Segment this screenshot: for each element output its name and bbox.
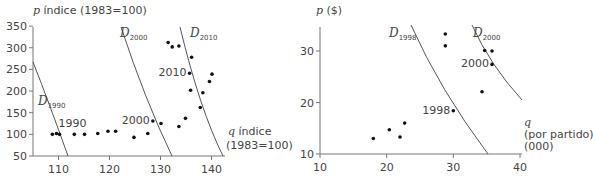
y-axis-title: p ($) bbox=[316, 4, 342, 17]
y-tick-label: 350 bbox=[6, 20, 27, 33]
demand-curve-label: D2000 bbox=[472, 26, 500, 42]
y-tick-label: 100 bbox=[6, 128, 27, 141]
data-point bbox=[444, 32, 448, 36]
data-point bbox=[51, 133, 55, 137]
data-point bbox=[73, 133, 77, 137]
data-point bbox=[55, 132, 59, 136]
data-point bbox=[403, 121, 407, 125]
chart-attendance-index: 11012013014050100150200250300350p índice… bbox=[6, 4, 293, 176]
point-year-label: 1998 bbox=[422, 104, 450, 117]
demand-curve bbox=[411, 25, 488, 154]
point-year-label: 2000 bbox=[461, 57, 489, 70]
y-tick-label: 200 bbox=[6, 85, 27, 98]
chart-canvas: 11012013014050100150200250300350p índice… bbox=[0, 0, 593, 183]
y-tick-label: 300 bbox=[6, 42, 27, 55]
data-point bbox=[398, 135, 402, 139]
data-point bbox=[159, 122, 163, 126]
x-axis-title: q índice bbox=[228, 125, 272, 138]
x-axis-title-line3: (000) bbox=[524, 140, 554, 153]
y-tick-label: 150 bbox=[6, 107, 27, 120]
data-point bbox=[177, 44, 181, 48]
data-point bbox=[166, 41, 170, 45]
data-point bbox=[96, 132, 100, 136]
data-point bbox=[58, 133, 62, 137]
y-tick-label: 30 bbox=[300, 45, 314, 58]
x-tick-label: 110 bbox=[48, 163, 69, 176]
x-tick-label: 10 bbox=[313, 161, 327, 174]
data-point bbox=[480, 90, 484, 94]
data-point bbox=[132, 136, 136, 140]
point-year-label: 2010 bbox=[159, 66, 187, 79]
x-tick-label: 120 bbox=[99, 163, 120, 176]
data-point bbox=[170, 45, 174, 49]
data-point bbox=[208, 80, 212, 84]
chart-ticket-price: 10203040102030p ($)q(por partido)(000)D1… bbox=[300, 4, 593, 174]
x-axis-title-line2: (1983=100) bbox=[226, 139, 293, 152]
data-point bbox=[490, 49, 494, 53]
demand-curve bbox=[121, 27, 172, 156]
x-tick-label: 40 bbox=[513, 161, 527, 174]
demand-curve-label: D1990 bbox=[37, 94, 65, 110]
data-point bbox=[190, 55, 194, 59]
x-tick-label: 130 bbox=[150, 163, 171, 176]
x-tick-label: 30 bbox=[446, 161, 460, 174]
point-year-label: 2000 bbox=[122, 114, 150, 127]
data-point bbox=[444, 44, 448, 48]
data-point bbox=[483, 49, 487, 53]
y-tick-label: 10 bbox=[300, 148, 314, 161]
demand-curve bbox=[180, 27, 223, 156]
data-point bbox=[188, 71, 192, 75]
data-point bbox=[83, 133, 87, 137]
y-tick-label: 250 bbox=[6, 63, 27, 76]
x-tick-label: 20 bbox=[380, 161, 394, 174]
y-axis-title: p índice (1983=100) bbox=[33, 4, 147, 17]
data-point bbox=[189, 88, 193, 92]
data-point bbox=[210, 72, 214, 76]
data-point bbox=[184, 117, 188, 121]
point-year-label: 1990 bbox=[58, 117, 86, 130]
data-point bbox=[452, 109, 456, 113]
data-point bbox=[372, 137, 376, 141]
data-point bbox=[106, 130, 110, 134]
data-point bbox=[388, 128, 392, 132]
data-point bbox=[114, 130, 118, 134]
y-tick-label: 20 bbox=[300, 97, 314, 110]
demand-curve-label: D2010 bbox=[189, 26, 217, 42]
data-point bbox=[490, 63, 494, 67]
data-point bbox=[198, 106, 202, 110]
demand-curve-label: D2000 bbox=[119, 26, 147, 42]
data-point bbox=[177, 125, 181, 129]
y-tick-label: 50 bbox=[13, 150, 27, 163]
x-tick-label: 140 bbox=[201, 163, 222, 176]
data-point bbox=[151, 119, 155, 123]
data-point bbox=[146, 132, 150, 136]
data-point bbox=[201, 91, 205, 95]
